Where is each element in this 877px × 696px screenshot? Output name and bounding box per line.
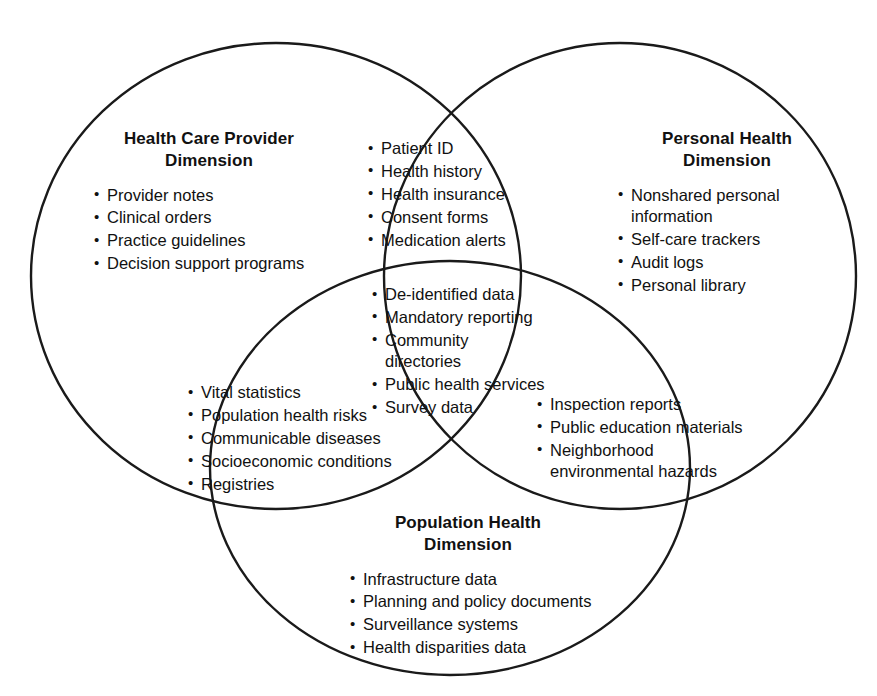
venn-diagram: Health Care Provider Dimension Provider … (0, 0, 877, 696)
list-item: Audit logs (618, 252, 842, 273)
list-personal-population: Inspection reports Public education mate… (537, 394, 752, 483)
list-item: Surveillance systems (350, 614, 618, 635)
region-provider-population-intersection: Vital statistics Population health risks… (188, 382, 428, 497)
list-item: Personal library (618, 275, 842, 296)
list-item: Public education materials (537, 417, 752, 438)
region-provider-personal-intersection: Patient ID Health history Health insuran… (368, 138, 558, 253)
list-item: Medication alerts (368, 230, 558, 251)
region-population-health: Population Health Dimension Infrastructu… (318, 512, 618, 660)
list-item: Patient ID (368, 138, 558, 159)
list-item: Self-care trackers (618, 229, 842, 250)
list-item: Health insurance (368, 184, 558, 205)
list-item: Practice guidelines (94, 230, 334, 251)
list-item: Planning and policy documents (350, 591, 618, 612)
region-personal-health: Personal Health Dimension Nonshared pers… (612, 128, 842, 298)
list-item: Community directories (372, 330, 582, 373)
list-item: Consent forms (368, 207, 558, 228)
list-item: Health history (368, 161, 558, 182)
region-personal-population-intersection: Inspection reports Public education mate… (537, 394, 752, 484)
list-item: Socioeconomic conditions (188, 451, 428, 472)
region-title-population-health: Population Health Dimension (318, 512, 618, 556)
list-item: Mandatory reporting (372, 307, 582, 328)
region-title-personal-health: Personal Health Dimension (612, 128, 842, 172)
list-population-health: Infrastructure data Planning and policy … (350, 569, 618, 659)
list-provider-population: Vital statistics Population health risks… (188, 382, 428, 495)
list-item: Communicable diseases (188, 428, 428, 449)
list-item: Neighborhood environmental hazards (537, 440, 752, 483)
list-personal-health: Nonshared personal information Self-care… (618, 185, 842, 297)
list-item: Clinical orders (94, 207, 334, 228)
region-health-care-provider: Health Care Provider Dimension Provider … (84, 128, 334, 276)
list-item: De-identified data (372, 284, 582, 305)
list-item: Infrastructure data (350, 569, 618, 590)
list-health-care-provider: Provider notes Clinical orders Practice … (94, 185, 334, 275)
list-item: Decision support programs (94, 253, 334, 274)
list-item: Registries (188, 474, 428, 495)
list-item: Health disparities data (350, 637, 618, 658)
list-item: Nonshared personal information (618, 185, 842, 228)
region-title-health-care-provider: Health Care Provider Dimension (84, 128, 334, 172)
list-item: Provider notes (94, 185, 334, 206)
list-provider-personal: Patient ID Health history Health insuran… (368, 138, 558, 251)
list-item: Inspection reports (537, 394, 752, 415)
list-item: Population health risks (188, 405, 428, 426)
list-item: Vital statistics (188, 382, 428, 403)
